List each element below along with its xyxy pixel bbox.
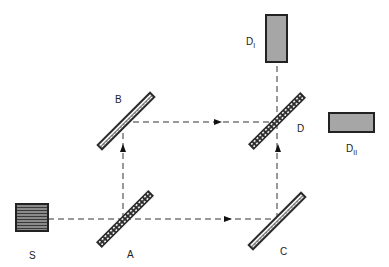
interferometer-diagram: S A B C D DI DII — [0, 0, 389, 267]
detector-DI — [266, 15, 287, 62]
label-B: B — [115, 94, 122, 105]
arrow-up-icon — [120, 144, 126, 152]
detector-DII — [329, 113, 374, 132]
arrow-right-icon — [214, 119, 222, 125]
label-detector-DII: DII — [346, 143, 357, 156]
arrow-up-icon — [275, 144, 281, 152]
beam-paths — [48, 62, 277, 219]
light-source — [16, 204, 48, 231]
mirror-C — [247, 191, 306, 250]
label-D: D — [297, 123, 304, 134]
label-C: C — [280, 246, 287, 257]
label-source: S — [29, 250, 36, 261]
label-A: A — [127, 249, 134, 260]
arrow-right-icon — [224, 216, 232, 222]
label-detector-DI: DI — [246, 36, 255, 49]
mirror-B — [96, 91, 155, 150]
